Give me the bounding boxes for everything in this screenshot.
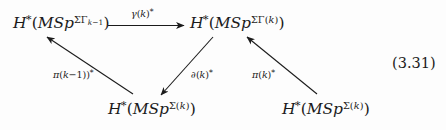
edge-label-gamma: γ(k)* [131, 7, 153, 19]
equation-number: (3.31) [392, 55, 436, 71]
node-bottom-center: H*(MSpΣ(k)) [108, 99, 196, 118]
node-top-left-label: H [13, 14, 26, 32]
node-top-left: H*(MSpΣΓk−1) [13, 13, 109, 32]
node-bottom-right: H*(MSpΣ(k)) [282, 99, 370, 118]
edge-partial-k [161, 37, 213, 95]
edge-label-partial-k: ∂(k)* [191, 68, 213, 80]
edge-label-pi-k-minus-1: π(k−1))* [53, 68, 94, 80]
node-bottom-center-label: H [108, 100, 121, 118]
equation-figure: H*(MSpΣΓk−1) H*(MSpΣΓ(k)) H*(MSpΣ(k)) H*… [0, 0, 446, 130]
node-bottom-right-label: H [282, 100, 295, 118]
edge-pi-k [247, 37, 317, 94]
edge-pi-k-minus-1 [47, 37, 133, 94]
node-top-right-label: H [190, 14, 203, 32]
node-top-right: H*(MSpΣΓ(k)) [190, 13, 284, 32]
edge-label-pi-k: π(k)* [252, 68, 275, 80]
